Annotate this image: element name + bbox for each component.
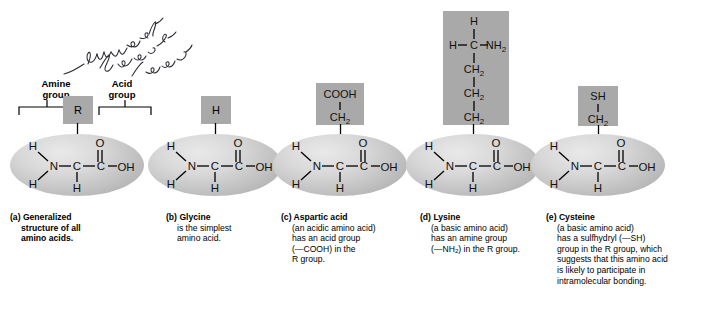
amino-acid-core-aspartic-acid: H H N C H C O OH <box>273 134 407 196</box>
svg-text:H: H <box>73 182 81 194</box>
svg-text:NH2: NH2 <box>486 39 507 54</box>
caption-name: Glycine <box>179 212 210 222</box>
caption-letter: (a) <box>10 212 21 222</box>
svg-text:H: H <box>425 140 433 152</box>
r-group-box-glycine: H <box>201 96 231 124</box>
svg-text:O: O <box>359 137 368 149</box>
svg-text:C: C <box>594 160 602 172</box>
caption-line: has an acid group <box>281 233 431 244</box>
caption-name: Lysine <box>433 212 460 222</box>
caption-aspartic-acid: (c) Aspartic acid (an acidic amino acid)… <box>281 212 431 265</box>
caption-line: (—COOH) in the <box>281 244 431 255</box>
svg-text:C: C <box>211 160 219 172</box>
svg-text:H: H <box>469 182 477 194</box>
svg-text:H: H <box>550 140 558 152</box>
svg-text:H: H <box>425 178 433 190</box>
r-group-label: H <box>212 104 220 116</box>
caption-name: Aspartic acid <box>294 212 348 222</box>
svg-text:C: C <box>336 160 344 172</box>
svg-text:H: H <box>167 178 175 190</box>
svg-text:O: O <box>617 137 626 149</box>
svg-text:CH2: CH2 <box>330 111 351 125</box>
svg-text:O: O <box>492 137 501 149</box>
svg-text:N: N <box>446 160 454 172</box>
caption-line: (a basic amino acid) <box>546 223 712 234</box>
caption-letter: (e) <box>546 212 557 222</box>
caption-line: is likely to participate in <box>546 265 712 276</box>
caption-line: amino acids. <box>10 233 160 244</box>
caption-line: structure of all <box>10 223 160 234</box>
caption-line: has a sulfhydryl (—SH) <box>546 233 712 244</box>
handwritten-annotation-icon <box>62 2 194 82</box>
svg-text:H: H <box>29 140 37 152</box>
svg-text:O: O <box>96 137 105 149</box>
caption-line: (an acidic amino acid) <box>281 223 431 234</box>
svg-text:OH: OH <box>255 161 272 173</box>
svg-text:H: H <box>292 140 300 152</box>
amino-acid-core-lysine: H H N C H C O OH <box>406 134 540 196</box>
svg-text:C: C <box>73 160 81 172</box>
caption-line: group in the R group, which <box>546 244 712 255</box>
svg-text:O: O <box>234 137 243 149</box>
caption-line: suggests that this amino acid <box>546 254 712 265</box>
caption-name: Generalized <box>23 212 72 222</box>
amino-acid-core-cysteine: H H N C H C O OH <box>531 134 665 196</box>
svg-text:CH2: CH2 <box>464 63 485 78</box>
caption-line: R group. <box>281 254 431 265</box>
svg-text:N: N <box>50 160 58 172</box>
svg-text:H: H <box>550 178 558 190</box>
svg-text:H: H <box>594 182 602 194</box>
svg-text:C: C <box>360 160 368 172</box>
svg-text:H: H <box>29 178 37 190</box>
svg-text:C: C <box>618 160 626 172</box>
svg-text:H: H <box>336 182 344 194</box>
svg-text:N: N <box>188 160 196 172</box>
svg-text:C: C <box>97 160 105 172</box>
svg-text:C: C <box>493 160 501 172</box>
svg-text:H: H <box>292 178 300 190</box>
svg-text:CH2: CH2 <box>464 111 485 125</box>
svg-text:H: H <box>167 140 175 152</box>
caption-name: Cysteine <box>559 212 595 222</box>
r-group-box-lysine: H H C NH2 CH2 CH2 CH2 <box>443 11 509 125</box>
svg-text:CH2: CH2 <box>464 87 485 102</box>
caption-letter: (b) <box>166 212 177 222</box>
svg-text:OH: OH <box>638 161 655 173</box>
acid-group-bracket <box>98 100 152 116</box>
amino-acid-figure: Amine group Acid group R <box>0 0 715 318</box>
r-group-box-aspartic-acid: COOH CH2 <box>316 83 364 125</box>
r-group-box-generalized: R <box>63 96 93 124</box>
svg-text:COOH: COOH <box>324 88 357 100</box>
svg-text:H: H <box>211 182 219 194</box>
caption-generalized: (a) Generalized structure of all amino a… <box>10 212 160 244</box>
svg-text:OH: OH <box>513 161 530 173</box>
svg-text:SH: SH <box>590 90 605 102</box>
amino-acid-core-generalized: H H N C H C O OH <box>10 134 144 196</box>
caption-letter: (d) <box>420 212 431 222</box>
svg-text:C: C <box>469 160 477 172</box>
r-group-label: R <box>74 104 82 116</box>
amino-acid-core-glycine: H H N C H C O OH <box>148 134 282 196</box>
svg-text:OH: OH <box>380 161 397 173</box>
r-group-box-cysteine: SH CH2 <box>578 86 618 126</box>
svg-text:N: N <box>313 160 321 172</box>
svg-text:H: H <box>449 39 457 51</box>
svg-text:H: H <box>470 15 478 27</box>
svg-text:C: C <box>470 39 478 51</box>
caption-cysteine: (e) Cysteine (a basic amino acid) has a … <box>546 212 712 286</box>
svg-text:OH: OH <box>117 161 134 173</box>
caption-letter: (c) <box>281 212 292 222</box>
svg-text:N: N <box>571 160 579 172</box>
svg-text:C: C <box>235 160 243 172</box>
caption-line: intramolecular bonding. <box>546 276 712 287</box>
acid-group-label: Acid group <box>96 79 148 100</box>
